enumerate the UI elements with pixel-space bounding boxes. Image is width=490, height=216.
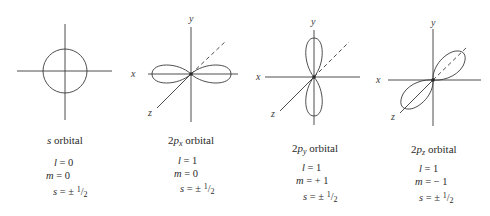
2px-z-axis-back — [191, 41, 226, 74]
2px-nucleus — [189, 72, 193, 76]
2pz-lobe-back — [433, 51, 465, 80]
2py-nucleus — [312, 75, 316, 79]
2px-orbital-caption: 2px orbital — [168, 134, 214, 148]
2px-z-label: z — [147, 107, 152, 118]
2px-orbital-figure: x y z — [130, 13, 238, 122]
2pz-y-label: y — [430, 17, 436, 28]
2pz-l-number: l = 1 — [419, 162, 438, 175]
s-m-number: m = 0 — [46, 169, 70, 182]
2py-spin-number: s = ± 1/2 — [303, 188, 337, 206]
2py-y-label: y — [310, 16, 316, 27]
2px-z-axis — [157, 74, 191, 108]
caption-suffix: orbital — [51, 134, 82, 146]
2pz-nucleus — [431, 78, 435, 82]
2pz-orbital-figure: x y z — [375, 17, 481, 126]
2px-l-number: l = 1 — [178, 154, 197, 167]
caption-suffix: orbital — [425, 143, 456, 155]
2pz-x-label: x — [375, 74, 381, 85]
s-spin-number: s = ± 1/2 — [53, 183, 87, 201]
s-l-number: l = 0 — [54, 156, 73, 169]
caption-suffix: orbital — [183, 134, 214, 146]
2py-z-label: z — [270, 108, 275, 119]
2py-z-axis — [280, 77, 314, 111]
2py-l-number: l = 1 — [302, 161, 321, 174]
2py-orbital-figure: x y z — [255, 16, 360, 125]
2px-x-label: x — [130, 68, 136, 79]
2pz-orbital-caption: 2pz orbital — [411, 143, 457, 157]
2px-spin-number: s = ± 1/2 — [180, 180, 214, 198]
2pz-m-number: m = − 1 — [415, 175, 448, 188]
2px-y-label: y — [188, 13, 194, 24]
2pz-spin-number: s = ± 1/2 — [419, 189, 453, 207]
2py-x-label: x — [255, 71, 261, 82]
2py-orbital-caption: 2py orbital — [292, 142, 338, 156]
2py-m-number: m = + 1 — [296, 174, 329, 187]
2pz-z-label: z — [390, 111, 395, 122]
s-orbital-figure — [17, 24, 112, 120]
2py-z-axis-back — [314, 42, 349, 77]
caption-suffix: orbital — [307, 142, 338, 154]
2px-m-number: m = 0 — [174, 167, 198, 180]
s-orbital-caption: s orbital — [47, 134, 83, 148]
